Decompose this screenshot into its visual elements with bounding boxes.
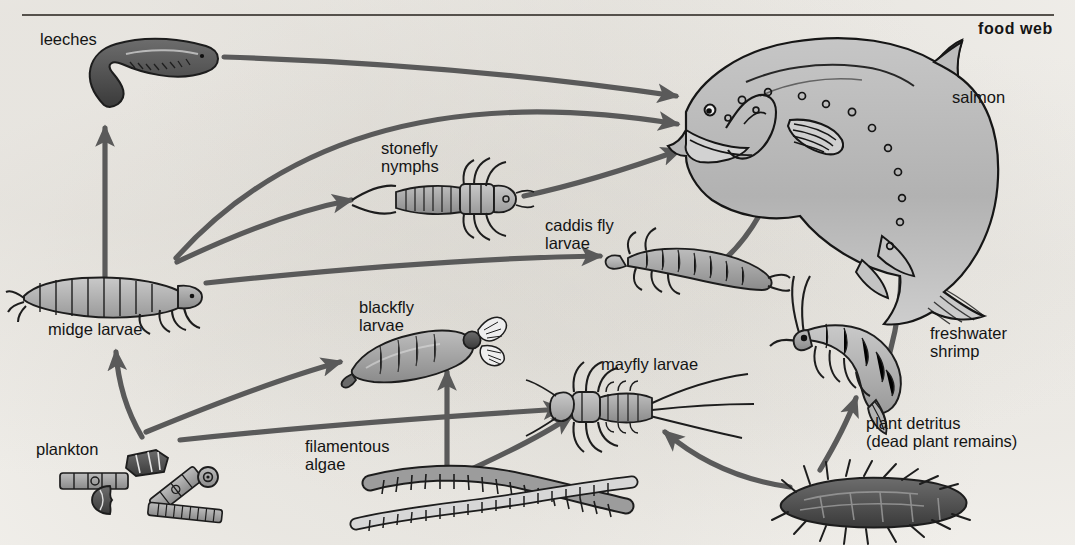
label-stonefly-nymphs-line1: stonefly: [381, 139, 438, 158]
leech-illustration: [90, 39, 218, 107]
label-blackfly-larvae-line2: larvae: [359, 316, 404, 335]
plant-detritus-illustration: [772, 460, 970, 544]
filamentous-algae-illustration: [356, 473, 632, 531]
stonefly-nymph-illustration: [352, 158, 534, 240]
label-plankton: plankton: [36, 440, 98, 459]
caddis-fly-larva-illustration: [606, 228, 790, 294]
plankton-illustration: [60, 450, 223, 523]
label-mayfly-larvae: mayfly larvae: [601, 355, 698, 374]
freshwater-shrimp-illustration: [770, 276, 901, 434]
organism-illustrations-layer: [0, 0, 1075, 545]
label-plant-detritus-line1: plant detritus: [866, 414, 960, 433]
label-filamentous-algae-line2: algae: [305, 455, 345, 474]
label-caddis-fly-larvae-line1: caddis fly: [545, 216, 614, 235]
label-freshwater-shrimp-line2: shrimp: [930, 342, 980, 361]
label-leeches: leeches: [40, 30, 97, 49]
label-salmon: salmon: [952, 88, 1005, 107]
label-caddis-fly-larvae-line2: larvae: [545, 234, 590, 253]
diagram-page: food web: [0, 0, 1075, 545]
label-midge-larvae: midge larvae: [48, 320, 142, 339]
label-freshwater-shrimp-line1: freshwater: [930, 324, 1007, 343]
mayfly-larva-illustration: [526, 362, 754, 452]
label-filamentous-algae-line1: filamentous: [305, 437, 389, 456]
label-blackfly-larvae-line1: blackfly: [359, 298, 414, 317]
label-plant-detritus-line2: (dead plant remains): [866, 432, 1017, 451]
label-stonefly-nymphs-line2: nymphs: [381, 157, 439, 176]
